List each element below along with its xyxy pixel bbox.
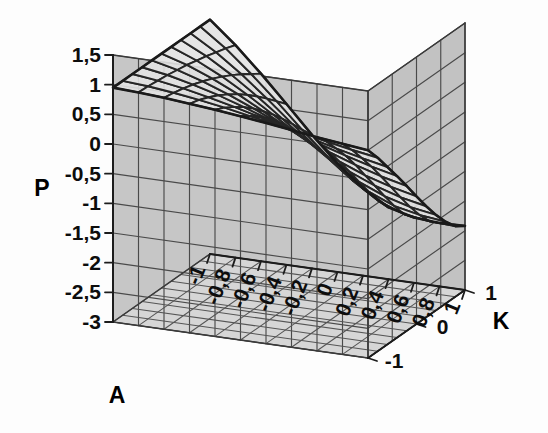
k-axis-tick	[465, 290, 474, 293]
a-axis-title: A	[109, 382, 126, 408]
k-axis-tick-label: -1	[385, 349, 404, 372]
p-axis-title: P	[34, 175, 49, 201]
p-axis-tick-label: -2,5	[65, 280, 102, 303]
k-axis-tick-label: 1	[485, 281, 497, 304]
k-axis-tick	[368, 358, 377, 361]
surface-plot-figure: 1,510,50-0,5-1-1,5-2-2,5-3-1-0,8-0,6-0,4…	[0, 0, 548, 433]
p-axis-tick-label: -1	[82, 191, 101, 214]
p-axis-tick-label: -2	[82, 251, 101, 274]
p-axis-tick-label: 0	[89, 132, 101, 155]
k-axis-title: K	[493, 308, 510, 334]
p-axis-tick-label: 1	[89, 73, 101, 96]
p-axis-tick-label: 0,5	[72, 102, 102, 125]
p-axis-tick-label: -0,5	[65, 162, 102, 185]
k-axis-tick-label: 0	[437, 315, 449, 338]
p-axis-tick-label: 1,5	[72, 43, 102, 66]
p-axis-tick-label: -3	[82, 310, 101, 333]
plot-canvas: 1,510,50-0,5-1-1,5-2-2,5-3-1-0,8-0,6-0,4…	[0, 0, 548, 433]
p-axis-tick-label: -1,5	[65, 221, 102, 244]
